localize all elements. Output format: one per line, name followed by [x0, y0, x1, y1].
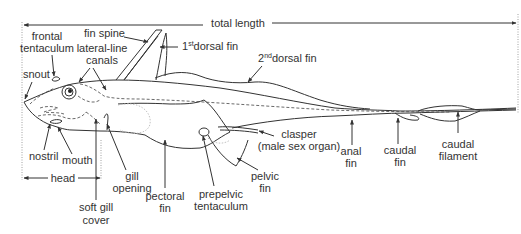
- svg-text:snout: snout: [23, 68, 50, 80]
- svg-text:fin: fin: [159, 202, 171, 214]
- label-lateral-line-canals: lateral-line canals: [77, 42, 128, 90]
- svg-text:tentaculum: tentaculum: [194, 200, 248, 212]
- svg-text:frontal: frontal: [32, 30, 63, 42]
- svg-text:mouth: mouth: [62, 154, 93, 166]
- svg-text:canals: canals: [86, 54, 118, 66]
- label-clasper: clasper (male sex organ): [258, 128, 341, 152]
- svg-text:fin: fin: [394, 156, 406, 168]
- svg-text:lateral-line: lateral-line: [77, 42, 128, 54]
- label-caudal-fin: caudal fin: [384, 118, 416, 168]
- svg-text:caudal: caudal: [384, 144, 416, 156]
- svg-text:(male sex organ): (male sex organ): [258, 140, 341, 152]
- label-snout: snout: [23, 68, 50, 99]
- svg-text:2nddorsal fin: 2nddorsal fin: [258, 52, 317, 64]
- label-nostril: nostril: [29, 124, 58, 162]
- svg-text:soft gill: soft gill: [79, 201, 113, 213]
- total-length-label: total length: [211, 17, 265, 29]
- svg-text:prepelvic: prepelvic: [199, 188, 244, 200]
- svg-text:filament: filament: [439, 150, 478, 162]
- svg-text:pectoral: pectoral: [145, 190, 184, 202]
- svg-text:fin: fin: [259, 182, 271, 194]
- svg-text:fin spine: fin spine: [84, 27, 125, 39]
- head-label: head: [51, 172, 75, 184]
- label-second-dorsal-fin: 2nddorsal fin: [248, 52, 317, 82]
- label-pelvic-fin: pelvic fin: [237, 158, 280, 194]
- label-caudal-filament: caudal filament: [439, 112, 478, 162]
- head-dimension: head: [24, 172, 100, 184]
- svg-text:nostril: nostril: [29, 150, 58, 162]
- svg-text:tentaculum: tentaculum: [20, 42, 74, 54]
- svg-text:anal: anal: [341, 145, 362, 157]
- svg-text:fin: fin: [345, 157, 357, 169]
- svg-text:cover: cover: [83, 214, 110, 226]
- label-fin-spine: fin spine: [84, 27, 148, 42]
- chimaera-anatomy-diagram: total length head: [0, 0, 521, 234]
- svg-text:1stdorsal fin: 1stdorsal fin: [182, 40, 238, 52]
- svg-text:caudal: caudal: [442, 138, 474, 150]
- label-pectoral-fin: pectoral fin: [145, 140, 184, 214]
- label-first-dorsal-fin: 1stdorsal fin: [160, 40, 238, 52]
- label-mouth: mouth: [58, 127, 93, 166]
- svg-text:gill: gill: [125, 170, 138, 182]
- svg-text:pelvic: pelvic: [251, 170, 280, 182]
- label-anal-fin: anal fin: [341, 120, 362, 169]
- svg-text:clasper: clasper: [281, 128, 317, 140]
- label-soft-gill-cover: soft gill cover: [79, 119, 113, 226]
